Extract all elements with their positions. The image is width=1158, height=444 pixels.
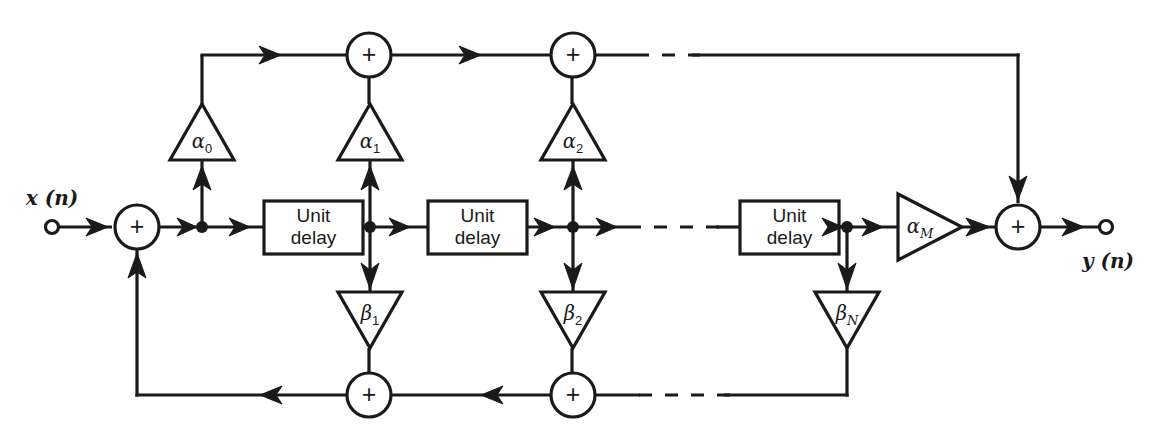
unit-delay-block-2: Unit delay [428, 201, 527, 254]
unit-delay-label-line2: delay [767, 227, 813, 248]
bottom-adder-2: + [551, 373, 595, 417]
output-terminal [1040, 218, 1113, 236]
adder-plus-symbol: + [566, 40, 581, 68]
top-adder-2: + [551, 33, 595, 77]
adder-plus-symbol: + [130, 212, 145, 240]
unit-delay-label-line1: Unit [461, 205, 496, 226]
adder-plus-symbol: + [362, 40, 377, 68]
input-terminal [46, 218, 113, 236]
diagram-canvas: + Unit delay Unit delay [0, 0, 1158, 444]
feedforward-branch-2: α2 [541, 77, 605, 227]
unit-delay-block-3: Unit delay [740, 201, 839, 254]
unit-delay-label-line2: delay [291, 227, 337, 248]
adder-plus-symbol: + [1011, 212, 1026, 240]
output-signal-label: y (n) [1081, 249, 1134, 273]
adder-plus-symbol: + [566, 380, 581, 408]
top-adder-1: + [347, 33, 391, 77]
bottom-adder-1: + [347, 373, 391, 417]
unit-delay-label-line2: delay [455, 227, 501, 248]
unit-delay-label-line1: Unit [297, 205, 332, 226]
output-adder: + [996, 205, 1040, 249]
unit-delay-block-1: Unit delay [264, 201, 363, 254]
input-signal-label: x (n) [25, 186, 78, 210]
signal-flow-diagram: + Unit delay Unit delay [0, 0, 1158, 444]
unit-delay-label-line1: Unit [773, 205, 808, 226]
adder-plus-symbol: + [362, 380, 377, 408]
input-adder: + [115, 205, 159, 249]
gain-alpha-M: αM [898, 194, 962, 260]
feedback-branch-2: β2 [541, 227, 605, 373]
